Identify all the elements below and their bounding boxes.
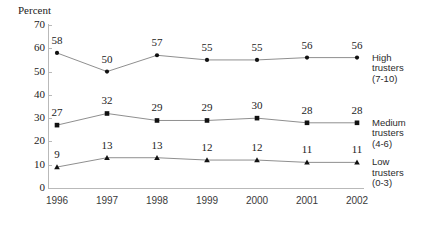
data-point-label: 13: [140, 140, 174, 151]
data-point-label: 11: [340, 144, 374, 155]
data-point-marker: [355, 121, 360, 126]
data-point-marker: [155, 53, 159, 57]
legend-item-0: Hightrusters(7-10): [372, 53, 404, 85]
data-point-marker: [155, 118, 160, 123]
data-point-label: 12: [190, 142, 224, 153]
legend-item-1: Mediumtrusters(4-6): [372, 118, 406, 150]
data-point-label: 55: [190, 42, 224, 53]
data-point-label: 58: [40, 35, 74, 46]
legend-item-2: Lowtrusters(0-3): [372, 157, 404, 189]
data-point-marker: [305, 121, 310, 126]
data-point-marker: [355, 56, 359, 60]
data-point-label: 32: [90, 95, 124, 106]
chart-figure: Percent 010203040506070 1996199719981999…: [0, 0, 431, 225]
data-point-label: 27: [40, 107, 74, 118]
data-point-label: 57: [140, 37, 174, 48]
data-point-label: 28: [340, 105, 374, 116]
data-point-label: 50: [90, 54, 124, 65]
data-point-label: 56: [340, 40, 374, 51]
data-point-marker: [205, 58, 209, 62]
data-point-marker: [255, 116, 260, 121]
data-point-marker: [205, 118, 210, 123]
data-point-marker: [55, 51, 59, 55]
data-point-marker: [105, 111, 110, 116]
data-point-label: 11: [290, 144, 324, 155]
legend-label-range: (4-6): [372, 139, 406, 150]
data-point-label: 29: [140, 102, 174, 113]
data-point-label: 30: [240, 100, 274, 111]
data-point-marker: [255, 58, 259, 62]
legend-label-range: (0-3): [372, 178, 404, 189]
data-point-label: 28: [290, 105, 324, 116]
data-point-marker: [105, 69, 109, 73]
data-point-label: 9: [40, 149, 74, 160]
data-point-label: 56: [290, 40, 324, 51]
data-point-label: 29: [190, 102, 224, 113]
legend-label-range: (7-10): [372, 74, 404, 85]
data-point-marker: [305, 56, 309, 60]
data-point-label: 55: [240, 42, 274, 53]
data-point-label: 12: [240, 142, 274, 153]
data-point-marker: [55, 123, 60, 128]
data-point-label: 13: [90, 140, 124, 151]
